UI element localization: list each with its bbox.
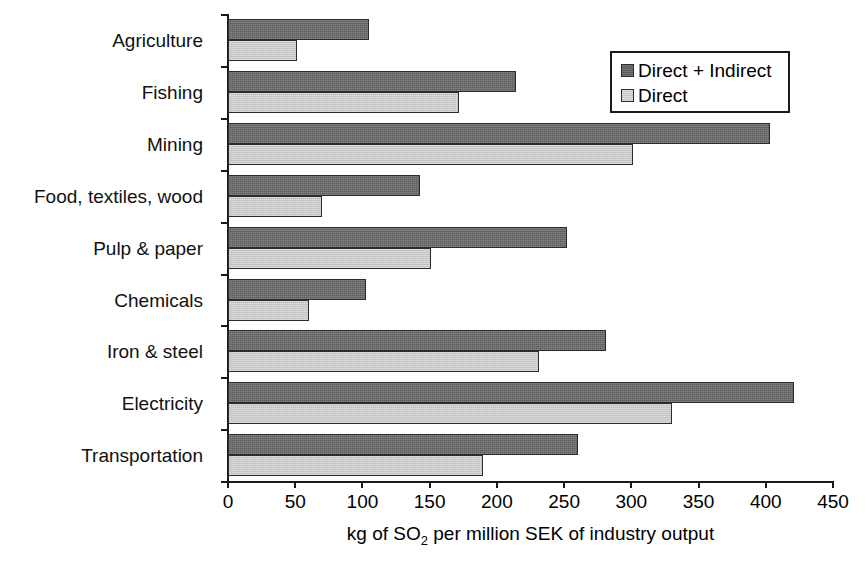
x-axis-tick [429,481,431,488]
category-label: Electricity [0,394,203,413]
x-axis-tick [294,481,296,488]
x-axis-title-subscript: 2 [421,533,428,548]
bar-direct [228,144,633,165]
category-label: Fishing [0,83,203,102]
bar-direct-indirect [228,434,578,455]
bar-chart: AgricultureFishingMiningFood, textiles, … [0,0,868,581]
x-axis-tick-label: 400 [750,491,782,513]
x-axis-tick-label: 200 [481,491,513,513]
category-label: Mining [0,135,203,154]
bar-direct-indirect [228,279,366,300]
y-axis-tick [221,222,228,224]
legend-swatch-direct-indirect [621,64,634,77]
x-axis-tick [496,481,498,488]
bar-direct-indirect [228,123,770,144]
x-axis-tick [563,481,565,488]
x-axis-tick-label: 100 [347,491,379,513]
x-axis-tick-label: 250 [548,491,580,513]
bar-direct [228,455,483,476]
y-axis-tick [221,325,228,327]
legend-item-direct-indirect: Direct + Indirect [621,58,788,83]
legend-item-direct: Direct [621,83,788,108]
x-axis-tick-label: 150 [414,491,446,513]
x-axis-tick-label: 450 [817,491,849,513]
y-axis-tick [221,274,228,276]
bar-direct-indirect [228,382,794,403]
category-label: Chemicals [0,291,203,310]
x-axis-tick [361,481,363,488]
bar-direct [228,248,431,269]
category-label: Transportation [0,446,203,465]
y-axis-tick [221,170,228,172]
bar-direct [228,92,459,113]
y-axis-tick [221,429,228,431]
legend: Direct + Indirect Direct [610,51,790,113]
x-axis-tick [630,481,632,488]
bar-direct-indirect [228,330,606,351]
x-axis-line [227,481,834,483]
bar-direct [228,403,672,424]
x-axis-tick [227,481,229,488]
x-axis-title-after: per million SEK of industry output [428,523,714,544]
x-axis-title-before: kg of SO [347,523,421,544]
legend-label-direct-indirect: Direct + Indirect [638,60,772,81]
x-axis-tick-label: 300 [615,491,647,513]
x-axis-tick-label: 350 [683,491,715,513]
x-axis-tick [765,481,767,488]
y-axis-tick [221,66,228,68]
legend-swatch-direct [621,89,634,102]
y-axis-tick [221,118,228,120]
x-axis-tick-label: 0 [223,491,234,513]
y-axis-tick [221,377,228,379]
bar-direct [228,300,309,321]
y-axis-tick [221,14,228,16]
category-axis-labels: AgricultureFishingMiningFood, textiles, … [0,0,213,481]
category-label: Agriculture [0,31,203,50]
x-axis-title: kg of SO2 per million SEK of industry ou… [228,523,833,552]
category-label: Food, textiles, wood [0,187,203,206]
x-axis-tick-label: 50 [285,491,306,513]
bar-direct [228,351,539,372]
bar-direct [228,40,297,61]
x-axis-tick [698,481,700,488]
legend-label-direct: Direct [638,85,688,106]
category-label: Pulp & paper [0,239,203,258]
bar-direct [228,196,322,217]
bar-direct-indirect [228,19,369,40]
bar-direct-indirect [228,175,420,196]
bar-direct-indirect [228,227,567,248]
category-label: Iron & steel [0,342,203,361]
bar-direct-indirect [228,71,516,92]
x-axis-tick [832,481,834,488]
